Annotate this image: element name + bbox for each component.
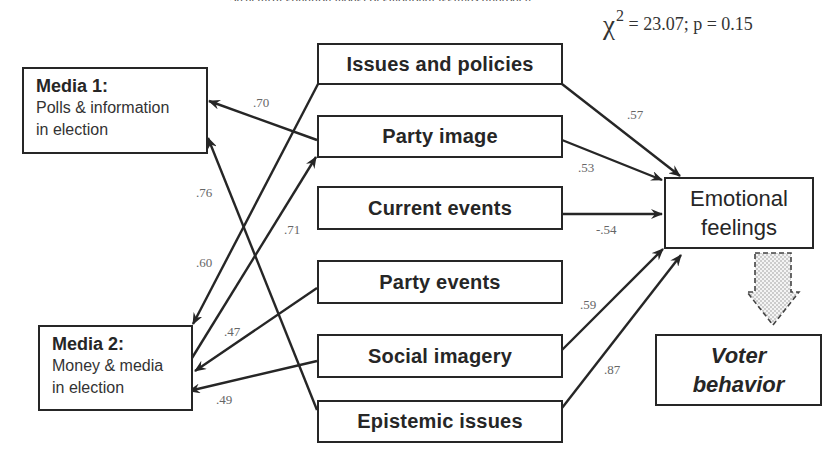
edge-issues-to-media2 <box>193 84 318 324</box>
edge-epistemic-to-media1 <box>208 138 317 410</box>
dashed-block-arrow-icon <box>747 253 799 325</box>
factor-issues-and-policies: Issues and policies <box>317 43 563 85</box>
media1-line1: Polls & information <box>36 97 196 119</box>
factor-epistemic-issues: Epistemic issues <box>317 400 563 443</box>
coef-issues-to-media2: .60 <box>196 255 212 271</box>
coef-issues-to-emotional: .57 <box>627 107 643 123</box>
edge-party-image-to-emotional <box>562 140 662 180</box>
coef-epistemic-to-emotional: .87 <box>604 362 620 378</box>
media2-box: Media 2: Money & media in election <box>38 325 193 411</box>
voter-line1: Voter <box>711 341 766 370</box>
factor-party-image: Party image <box>317 115 563 158</box>
coef-epistemic-to-media1: .76 <box>196 185 212 201</box>
emotional-line1: Emotional <box>690 184 788 213</box>
media2-title: Media 2: <box>52 333 181 355</box>
factor-current-events: Current events <box>317 186 563 230</box>
voter-behavior-box: Voter behavior <box>655 334 822 406</box>
coef-party-image-to-emotional: .53 <box>578 160 594 176</box>
media1-box: Media 1: Polls & information in election <box>22 67 208 154</box>
coef-social-imagery-to-emotional: .59 <box>580 297 596 313</box>
coef-social-imagery-to-media2: .49 <box>216 392 232 408</box>
media2-line1: Money & media <box>52 355 181 377</box>
edge-social-imagery-to-media2 <box>189 361 317 391</box>
coef-media2-to-party-image: .71 <box>284 222 300 238</box>
emotional-line2: feelings <box>701 213 777 242</box>
coef-party-image-to-media1: .70 <box>253 95 269 111</box>
media1-title: Media 1: <box>36 75 196 97</box>
coef-current-events-to-emotional: -.54 <box>596 222 617 238</box>
media1-line2: in election <box>36 119 196 141</box>
factor-party-events: Party events <box>317 260 563 304</box>
media2-line2: in election <box>52 377 181 399</box>
voter-line2: behavior <box>693 370 785 399</box>
emotional-feelings-box: Emotional feelings <box>664 177 814 249</box>
edge-party-events-to-media2 <box>195 288 317 371</box>
factor-social-imagery: Social imagery <box>317 334 563 378</box>
coef-party-events-to-media2: .47 <box>224 324 240 340</box>
